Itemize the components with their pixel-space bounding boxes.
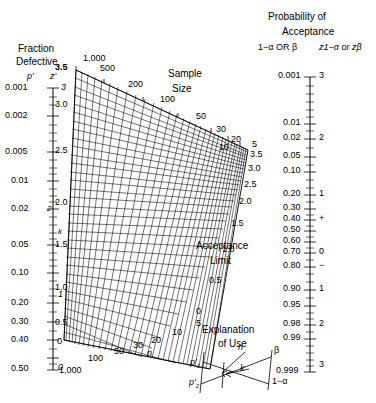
z-alpha-beta-symbol: z1−α or zβ — [319, 43, 362, 52]
inset-p2-label: p'2 — [189, 378, 199, 389]
acceptance-limit-label-line2: Limit — [210, 256, 231, 266]
bottom-n-tick-3: 30 — [133, 341, 143, 350]
grid-left-edge-4: 1.5 — [55, 240, 68, 249]
nomogram-figure: Fraction Defective p' z' 0.001 0.002 0.0… — [0, 0, 376, 403]
p-tick-5: 0.05 — [11, 240, 29, 249]
prob-tick-5: 0.20 — [283, 189, 301, 198]
acceptance-limit-label-line1: Acceptance — [196, 241, 248, 251]
grid-left-edge-3: 2.0 — [55, 198, 68, 207]
right-z-tick-6: 1 — [319, 284, 324, 293]
inset-title-line1: Explanation — [202, 325, 254, 335]
bottom-n-tick-6: 5 — [196, 319, 201, 328]
p-tick-6: 0.10 — [11, 268, 29, 277]
prob-tick-10: 0.70 — [283, 247, 301, 256]
prob-tick-6: 0.30 — [283, 203, 301, 212]
fraction-defective-header-line1: Fraction — [18, 44, 54, 54]
sample-size-label-line1: Sample — [168, 69, 202, 79]
bottom-n-tick-5: 10 — [172, 328, 182, 337]
right-z-tick-8: 3 — [319, 360, 324, 369]
top-n-tick-1: 500 — [100, 64, 115, 73]
right-z-tick-4: 0 — [319, 247, 324, 256]
prob-tick-13: 0.95 — [283, 300, 301, 309]
inset-k-label: k — [240, 364, 245, 373]
inset-alpha-label: 1−α — [272, 377, 287, 386]
right-z-tick-5: − — [319, 261, 324, 270]
z-prime-symbol: z' — [50, 72, 56, 81]
p-tick-10: 0.50 — [11, 364, 29, 373]
right-z-tick-3: + — [319, 214, 324, 223]
inset-n-label: n — [238, 343, 243, 352]
top-n-tick-2: 200 — [128, 80, 143, 89]
prob-tick-14: 0.98 — [283, 319, 301, 328]
prob-tick-11: 0.80 — [283, 261, 301, 270]
prob-tick-2: 0.02 — [283, 133, 301, 142]
grid-right-edge-4: 2.0 — [239, 197, 252, 206]
p-tick-1: 0.002 — [5, 111, 28, 120]
p-tick-9: 0.40 — [11, 335, 29, 344]
alpha-beta-symbol: 1−α OR β — [258, 43, 297, 52]
p-prime-symbol: p' — [27, 72, 34, 81]
grid-left-edge-1: 3.0 — [55, 100, 68, 109]
bottom-n-tick-1: 100 — [88, 354, 103, 363]
prob-tick-9: 0.60 — [283, 236, 301, 245]
bottom-n-tick-4: 20 — [151, 336, 161, 345]
p-tick-7: 0.20 — [11, 298, 29, 307]
bottom-n-tick-2: 50 — [114, 347, 124, 356]
grid-right-edge-5: 1.5 — [231, 219, 244, 228]
probability-header-line2: Acceptance — [282, 27, 334, 37]
right-z-tick-0: 3 — [319, 71, 324, 80]
top-n-tick-3: 100 — [160, 95, 175, 104]
grid-top-right-small: 10 — [219, 143, 229, 152]
top-n-tick-5: 30 — [216, 125, 226, 134]
right-z-tick-2: 1 — [319, 189, 324, 198]
prob-tick-15: 0.99 — [283, 333, 301, 342]
k-label-left: k — [58, 228, 62, 236]
grid-top-ticks — [76, 66, 240, 146]
prob-tick-4: 0.10 — [283, 166, 301, 175]
top-n-tick-0: 1,000 — [83, 54, 106, 63]
grid-right-edge-3: 2.5 — [244, 180, 257, 189]
grid-right-edge-7: 0.5 — [209, 276, 222, 285]
zprime-tick-1: 2 — [47, 205, 51, 213]
prob-tick-7: 0.40 — [283, 214, 301, 223]
grid-left-edge-6: 0.5 — [55, 318, 68, 327]
top-n-tick-6: 20 — [231, 135, 241, 144]
inset-p1-label: p'1 — [190, 358, 200, 369]
grid-left-edge-7: 0 — [57, 337, 62, 346]
prob-tick-3: 0.05 — [283, 151, 301, 160]
grid-right-edge-0: 5 — [252, 140, 257, 149]
p-tick-2: 0.005 — [5, 147, 28, 156]
top-n-tick-4: 50 — [196, 112, 206, 121]
bottom-n-tick-0: 1,000 — [59, 366, 82, 375]
prob-tick-16: 0.999 — [276, 366, 299, 375]
zprime-tick-0: 3 — [61, 83, 66, 92]
prob-tick-12: 0.90 — [283, 284, 301, 293]
prob-tick-1: 0.01 — [283, 118, 301, 127]
grid-right-edge-8: 0 — [196, 307, 201, 316]
prob-tick-0: 0.001 — [278, 71, 301, 80]
p-tick-8: 0.30 — [11, 317, 29, 326]
p-tick-3: 0.01 — [11, 176, 29, 185]
grid-right-edge-2: 3.0 — [248, 164, 261, 173]
sample-size-label-line2: Size — [172, 84, 191, 94]
prob-tick-8: 0.50 — [283, 225, 301, 234]
probability-header-line1: Probability of — [268, 12, 326, 22]
n-symbol-bottom: n — [147, 349, 152, 358]
right-z-tick-1: 2 — [319, 133, 324, 142]
grid-left-edge-2: 2.5 — [55, 146, 68, 155]
inset-beta-label: β — [274, 346, 279, 355]
p-tick-0: 0.001 — [5, 83, 28, 92]
grid-left-edge-0: 3.5 — [55, 63, 68, 72]
right-axis-group — [304, 77, 316, 372]
fraction-defective-header-line2: Defective — [16, 57, 58, 67]
grid-left-edge-5: 1.0 — [55, 283, 68, 292]
right-z-tick-7: 2 — [319, 319, 324, 328]
p-tick-4: 0.02 — [11, 204, 29, 213]
inset-diagram — [200, 350, 272, 393]
grid-right-edge-1: 3.5 — [250, 150, 263, 159]
